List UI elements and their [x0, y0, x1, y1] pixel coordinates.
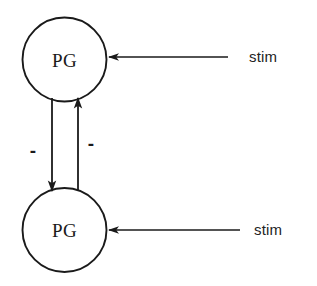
- node-pg-bottom[interactable]: PG: [23, 188, 107, 272]
- connection-inhibit-upward[interactable]: -: [78, 98, 94, 191]
- node-pg-top[interactable]: PG: [23, 18, 107, 102]
- stim-top-label: stim: [249, 48, 277, 65]
- inhibit-downward-sign: -: [30, 140, 36, 161]
- diagram-canvas: PG PG stim stim - -: [0, 0, 317, 286]
- stim-bottom-label: stim: [254, 221, 282, 238]
- node-pg-top-label: PG: [52, 50, 77, 71]
- stim-input-top[interactable]: stim: [109, 48, 277, 65]
- pg-network-diagram: PG PG stim stim - -: [0, 0, 317, 286]
- inhibit-upward-sign: -: [88, 133, 94, 154]
- connection-inhibit-downward[interactable]: -: [30, 98, 52, 191]
- stim-input-bottom[interactable]: stim: [109, 221, 282, 238]
- node-pg-bottom-label: PG: [52, 220, 77, 241]
